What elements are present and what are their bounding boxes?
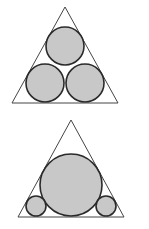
circle-bottom-right — [66, 64, 104, 102]
circle-small-right — [96, 196, 116, 216]
circle-bottom-left — [26, 64, 64, 102]
circle-top — [46, 27, 84, 65]
figure-top — [12, 7, 118, 103]
figure-bottom — [18, 120, 124, 217]
diagram-canvas — [0, 0, 149, 229]
circle-large — [40, 154, 102, 216]
circle-small-left — [26, 196, 46, 216]
